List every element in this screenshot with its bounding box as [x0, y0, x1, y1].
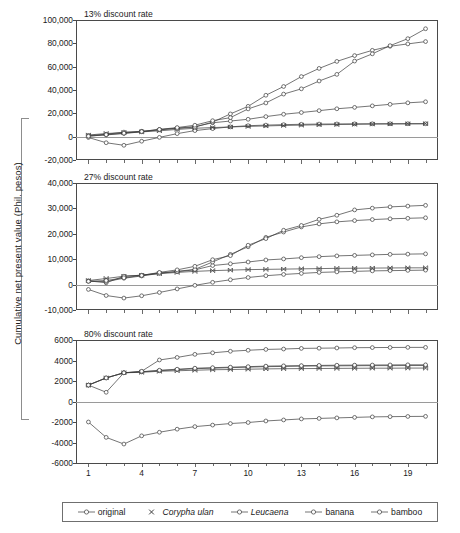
x-tick-label: 10	[243, 468, 252, 478]
zero-line	[76, 402, 438, 403]
y-tick-label: -4000	[52, 438, 73, 448]
circle-marker-icon	[231, 507, 248, 517]
y-tick-mark	[73, 381, 76, 382]
panel-80-percent: 80% discount rate-6000-4000-200002000400…	[0, 0, 460, 533]
x-tick-label: 19	[403, 468, 412, 478]
legend-label: bamboo	[391, 507, 422, 517]
legend-item-banana[interactable]: banana	[305, 507, 354, 517]
legend-label: original	[98, 507, 126, 517]
legend-label: banana	[325, 507, 354, 517]
y-tick-mark	[73, 443, 76, 444]
legend-item-corypha-ulan[interactable]: Corypha ulan	[143, 507, 214, 517]
x-tick-label: 4	[139, 468, 144, 478]
x-tick-label: 1	[86, 468, 91, 478]
y-tick-label: -6000	[52, 458, 73, 468]
y-tick-mark	[73, 340, 76, 341]
circle-marker-icon	[78, 507, 95, 517]
legend-item-bamboo[interactable]: bamboo	[371, 507, 422, 517]
y-tick-mark	[73, 361, 76, 362]
x-tick-label: 7	[193, 468, 198, 478]
legend-label: Leucaena	[251, 507, 289, 517]
legend-item-leucaena[interactable]: Leucaena	[231, 507, 289, 517]
circle-marker-icon	[371, 507, 388, 517]
x-tick-label: 13	[297, 468, 306, 478]
figure-root: Cumulative net present value (Phil. peso…	[0, 0, 460, 533]
panel-title: 80% discount rate	[84, 329, 153, 339]
y-tick-mark	[73, 422, 76, 423]
x-axis-line	[76, 463, 438, 464]
legend: originalCorypha ulanLeucaenabananabamboo	[62, 502, 438, 522]
y-tick-label: 4000	[54, 356, 73, 366]
y-tick-label: 2000	[54, 376, 73, 386]
y-tick-label: 6000	[54, 335, 73, 345]
y-tick-label: -2000	[52, 417, 73, 427]
legend-label: Corypha ulan	[163, 507, 214, 517]
x-marker-icon	[143, 507, 160, 517]
circle-marker-icon	[305, 507, 322, 517]
legend-item-original[interactable]: original	[78, 507, 126, 517]
x-tick-label: 16	[350, 468, 359, 478]
